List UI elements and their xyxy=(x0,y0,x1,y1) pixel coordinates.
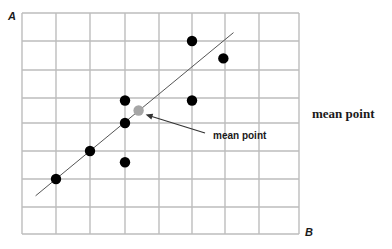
y-axis-label: A xyxy=(8,10,16,22)
mean-point-marker xyxy=(133,105,143,115)
mean-point-annotation: mean point xyxy=(213,130,266,141)
data-point xyxy=(120,95,130,105)
data-point xyxy=(120,118,130,128)
data-point xyxy=(187,36,197,46)
mean-point-caption: mean point xyxy=(312,106,374,122)
data-point xyxy=(187,95,197,105)
data-point xyxy=(218,53,228,63)
data-point xyxy=(85,146,95,156)
scatter-plot-figure xyxy=(0,0,392,249)
grid xyxy=(22,13,299,234)
mean-point xyxy=(133,105,143,115)
x-axis-label: B xyxy=(305,226,313,238)
line-of-best-fit xyxy=(36,33,234,196)
arrowhead-icon xyxy=(146,114,154,120)
data-point xyxy=(51,174,61,184)
data-point xyxy=(120,157,130,167)
